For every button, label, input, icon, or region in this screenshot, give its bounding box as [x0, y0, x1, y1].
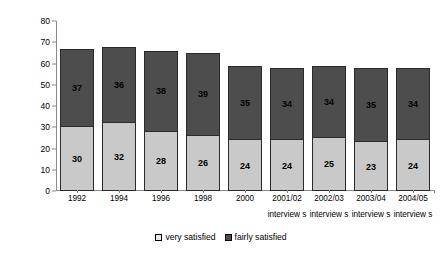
- legend-label: fairly satisfied: [235, 232, 287, 242]
- bar-value-label-very-satisfied: 30: [60, 154, 94, 164]
- stacked-bar-chart: Percentage very or fairly satisfied 0102…: [0, 0, 442, 257]
- x-tick-label: 1996: [140, 193, 182, 204]
- x-tick-label-year: 1994: [98, 193, 140, 204]
- bar-value-label-fairly-satisfied: 38: [144, 86, 178, 96]
- bar-value-label-very-satisfied: 25: [312, 159, 346, 169]
- bar-group[interactable]: 2335: [354, 21, 388, 191]
- bar-value-label-very-satisfied: 26: [186, 158, 220, 168]
- bar-value-label-fairly-satisfied: 34: [270, 99, 304, 109]
- x-tick-label: 2004/05interview s: [392, 193, 434, 220]
- bar-value-label-fairly-satisfied: 39: [186, 89, 220, 99]
- legend-swatch-fairly-satisfied: [225, 234, 232, 241]
- legend-item[interactable]: fairly satisfied: [225, 232, 287, 242]
- bars-layer: 303732362838263924352434253423352434: [56, 21, 434, 191]
- bar-value-label-very-satisfied: 24: [228, 161, 262, 171]
- x-tick-label-sub: interview s: [392, 209, 434, 220]
- bar-value-label-fairly-satisfied: 36: [102, 80, 136, 90]
- x-tick-mark: [413, 190, 414, 193]
- x-tick-label-year: 1992: [56, 193, 98, 204]
- x-tick-label: 1998: [182, 193, 224, 204]
- bar-value-label-fairly-satisfied: 34: [396, 99, 430, 109]
- x-tick-label-year: 2002/03: [308, 193, 350, 204]
- x-tick-mark: [329, 190, 330, 193]
- bar-group[interactable]: 2639: [186, 21, 220, 191]
- bar-value-label-fairly-satisfied: 37: [60, 83, 94, 93]
- x-tick-mark: [161, 190, 162, 193]
- legend-label: very satisfied: [165, 232, 215, 242]
- bar-value-label-very-satisfied: 32: [102, 152, 136, 162]
- x-tick-label-sub: interview s: [266, 209, 308, 220]
- bar-group[interactable]: 2534: [312, 21, 346, 191]
- x-tick-mark: [287, 190, 288, 193]
- x-tick-label-year: 1996: [140, 193, 182, 204]
- legend-swatch-very-satisfied: [155, 234, 162, 241]
- x-tick-mark: [434, 190, 435, 193]
- x-tick-label: 1994: [98, 193, 140, 204]
- x-tick-label-year: 2001/02: [266, 193, 308, 204]
- bar-group[interactable]: 2435: [228, 21, 262, 191]
- bar-group[interactable]: 3037: [60, 21, 94, 191]
- x-tick-label: 2000: [224, 193, 266, 204]
- x-tick-label: 2003/04interview s: [350, 193, 392, 220]
- x-tick-mark: [77, 190, 78, 193]
- x-tick-label-year: 1998: [182, 193, 224, 204]
- x-tick-label-sub: interview s: [308, 209, 350, 220]
- bar-value-label-very-satisfied: 24: [270, 161, 304, 171]
- x-tick-label-year: 2004/05: [392, 193, 434, 204]
- x-tick-label: 2001/02interview s: [266, 193, 308, 220]
- x-axis-labels: 199219941996199820002001/02interview s20…: [56, 193, 434, 225]
- x-tick-label-sub: interview s: [350, 209, 392, 220]
- chart-legend: very satisfiedfairly satisfied: [0, 232, 442, 242]
- bar-value-label-very-satisfied: 28: [144, 156, 178, 166]
- bar-value-label-fairly-satisfied: 35: [354, 100, 388, 110]
- bar-group[interactable]: 2838: [144, 21, 178, 191]
- bar-group[interactable]: 2434: [270, 21, 304, 191]
- bar-value-label-very-satisfied: 24: [396, 161, 430, 171]
- bar-value-label-fairly-satisfied: 35: [228, 98, 262, 108]
- x-tick-mark: [203, 190, 204, 193]
- x-tick-label-year: 2003/04: [350, 193, 392, 204]
- x-tick-label-year: 2000: [224, 193, 266, 204]
- x-tick-mark: [371, 190, 372, 193]
- x-tick-mark: [245, 190, 246, 193]
- x-tick-label: 1992: [56, 193, 98, 204]
- x-tick-mark: [119, 190, 120, 193]
- bar-group[interactable]: 2434: [396, 21, 430, 191]
- legend-item[interactable]: very satisfied: [155, 232, 215, 242]
- bar-value-label-very-satisfied: 23: [354, 162, 388, 172]
- bar-value-label-fairly-satisfied: 34: [312, 97, 346, 107]
- x-tick-label: 2002/03interview s: [308, 193, 350, 220]
- plot-area: 01020304050607080 3037323628382639243524…: [56, 21, 434, 191]
- bar-group[interactable]: 3236: [102, 21, 136, 191]
